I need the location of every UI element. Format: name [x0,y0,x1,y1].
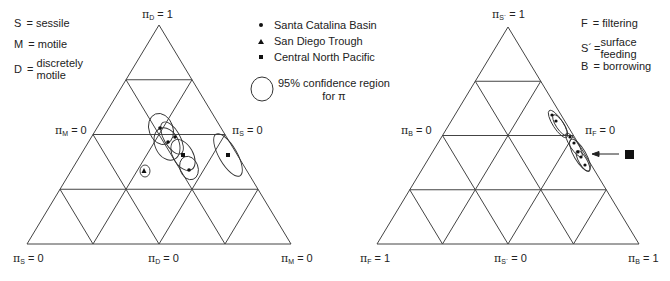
key-multiline-text: discretely motile [37,57,83,81]
key-text: filtering [602,17,637,30]
key-text: motile [38,38,67,51]
right-left-mid-label: πB = 0 [401,124,432,140]
left-right-mid-label: πS = 0 [232,124,263,140]
confidence-label-line: for π [278,90,390,103]
left-bottom-left-label: πS = 0 [13,252,44,268]
left-apex-label: πD = 1 [142,8,173,24]
key-eq: = [26,17,32,30]
label-value: = 1 [506,8,525,20]
label-value: = 0 [413,124,432,136]
key-text: borrowing [603,60,651,73]
right-confidence-ellipses [545,108,594,174]
legend-label: San Diego Trough [274,33,363,49]
key-symbol: D [14,63,22,76]
label-value: = 0 [25,252,44,264]
key-row: S = sessile [14,17,83,30]
key-eq: = [28,38,34,51]
label-value: = 0 [160,252,179,264]
key-symbol: F [581,17,588,30]
key-eq: = [593,60,599,73]
key-text: discretely [37,57,83,69]
confidence-region-icon [251,77,273,101]
arrow-icon [592,152,619,157]
key-symbol: S´ [581,42,592,55]
label-value: = 0 [294,252,313,264]
key-multiline-text: surface feeding [600,36,636,60]
right-right-mid-label: πF = 0 [585,124,615,140]
key-text: surface [600,36,636,48]
confidence-legend-label: 95% confidence region for π [278,77,390,103]
left-bottom-mid-label: πD = 0 [148,252,179,268]
key-row: F = filtering [581,17,651,30]
key-symbol: B [581,60,588,73]
label-value: = 1 [372,252,391,264]
label-value: = 0 [68,124,87,136]
offchart-square-marker [625,150,634,159]
legend-item-san-diego: San Diego Trough [254,33,377,49]
key-text: feeding [600,48,636,60]
right-bottom-left-label: πF = 1 [360,252,390,268]
legend-item-central-north-pacific: Central North Pacific [254,49,377,65]
site-legend: Santa Catalina Basin San Diego Trough Ce… [254,17,377,65]
key-row: S´= surface feeding [581,36,651,60]
key-symbol: M [14,38,23,51]
left-left-mid-label: πM = 0 [55,124,87,140]
legend-label: Central North Pacific [274,49,375,65]
left-bottom-right-label: πM = 0 [281,252,313,268]
legend-item-santa-catalina: Santa Catalina Basin [254,17,377,33]
key-text: motile [37,69,83,81]
label-value: = 0 [508,252,527,264]
label-value: = 0 [244,124,263,136]
label-value: = 1 [640,252,659,264]
right-data-points [550,113,634,166]
right-key: F = filtering S´= surface feeding B = bo… [581,17,651,79]
square-marker-icon [259,55,263,59]
label-value: = 1 [154,8,173,20]
key-symbol: S [14,17,21,30]
left-key: S = sessile M = motile D = discretely mo… [14,17,83,87]
key-row: B = borrowing [581,60,651,73]
key-eq: = [27,63,33,76]
key-row: M = motile [14,38,83,51]
confidence-label-line: 95% confidence region [278,77,390,90]
key-text: sessile [36,17,70,30]
key-row: D = discretely motile [14,57,83,81]
triangle-marker-icon [258,39,264,44]
right-bottom-right-label: πB = 1 [628,252,659,268]
left-data-points [142,126,231,173]
circle-marker-icon [259,23,263,27]
key-eq: = [593,17,599,30]
right-apex-label: πS´ = 1 [492,8,525,24]
label-value: = 0 [597,124,616,136]
ternary-figure: S = sessile M = motile D = discretely mo… [0,0,670,281]
legend-label: Santa Catalina Basin [274,17,377,33]
right-bottom-mid-label: πS´ = 0 [494,252,527,268]
